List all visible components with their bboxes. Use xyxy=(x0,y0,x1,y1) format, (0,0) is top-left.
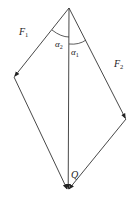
label-alpha1: α1 xyxy=(71,47,79,58)
label-f1: F1 xyxy=(18,26,28,38)
angle-arc-alpha1 xyxy=(69,40,86,44)
label-alpha2: α2 xyxy=(55,39,63,50)
vector-q xyxy=(68,8,69,189)
angle-arc-alpha2 xyxy=(52,30,69,37)
force-diagram: F1 α2 α1 F2 Q xyxy=(0,0,136,200)
label-q: Q xyxy=(71,169,79,180)
parallelogram-side-left xyxy=(14,77,67,189)
vector-f1 xyxy=(15,8,70,77)
label-f2: F2 xyxy=(113,58,123,70)
